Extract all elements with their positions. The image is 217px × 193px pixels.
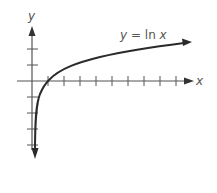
ln-curve xyxy=(35,43,184,152)
ln-graph: y x y = ln x xyxy=(0,0,217,193)
y-axis-arrow-icon xyxy=(29,26,36,36)
x-axis-arrow-icon xyxy=(184,78,194,85)
y-axis-label: y xyxy=(27,9,36,23)
curve-down-arrow-icon xyxy=(32,148,39,159)
x-axis-label: x xyxy=(195,74,204,88)
curve-label: y = ln x xyxy=(119,28,168,42)
curve-arrow-icon xyxy=(182,39,192,47)
